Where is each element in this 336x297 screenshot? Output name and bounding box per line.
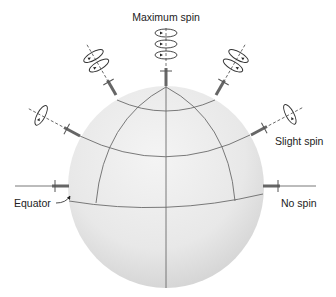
equator-pointer-arrow — [56, 196, 70, 203]
left-equator-indicator — [15, 180, 69, 192]
earth-rotation-diagram: Maximum spin Slight spin Equator No spin — [0, 0, 336, 297]
left-mid-spin-indicator — [22, 98, 85, 146]
label-no-spin: No spin — [281, 197, 317, 209]
label-slight-spin: Slight spin — [275, 135, 324, 147]
upper-right-spin-indicator — [206, 38, 255, 101]
north-pole-spin-indicator — [155, 28, 177, 86]
right-equator-indicator — [263, 180, 316, 192]
label-maximum-spin: Maximum spin — [132, 11, 200, 23]
upper-left-spin-indicator — [76, 38, 125, 101]
label-equator: Equator — [14, 197, 51, 209]
globe — [68, 86, 264, 288]
